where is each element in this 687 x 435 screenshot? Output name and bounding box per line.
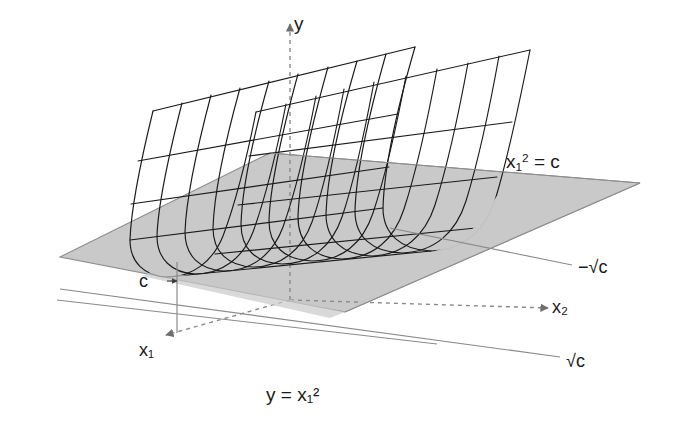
axis-label-x1: x₁ [139,341,154,359]
axis-label-x2: x₂ [552,298,568,316]
axis-label-y: y [294,14,304,33]
mesh-longitudinal [249,122,512,156]
leader-line-base [57,300,437,344]
level-value-label: c [139,272,148,290]
sqrt-c-label: √c [566,352,585,370]
plane-eq-rest: = c [534,151,560,172]
figure-caption: y = x₁² [266,385,319,404]
plane-equation-label: x12 = c [506,152,560,173]
mesh-rim-front [256,50,530,112]
plane-eq-superscript: 2 [522,151,529,164]
neg-sqrt-c-label: −√c [578,258,607,276]
mesh-rim-back [153,47,415,111]
parabolic-cylinder-figure: y x12 = c −√c x₂ √c x₁ c y = x₁² [0,0,687,435]
